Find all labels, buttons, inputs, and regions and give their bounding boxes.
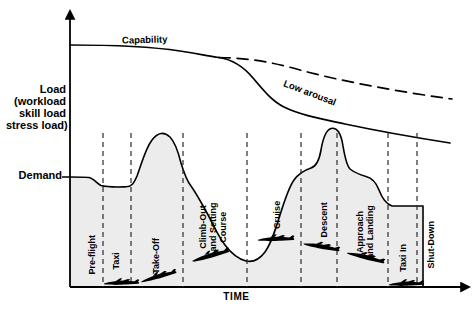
workload-capability-diagram: Load (workload skill load stress load) D… bbox=[0, 0, 473, 312]
phase-label-climb-out: Climb-Out and Setting Course bbox=[198, 187, 228, 267]
x-axis-label: TIME bbox=[0, 292, 473, 303]
phase-label-descent: Descent bbox=[320, 185, 330, 255]
phase-label-approach-landing: Approach and Landing bbox=[355, 192, 375, 272]
demand-label: Demand bbox=[6, 170, 62, 182]
y-axis-label: Load (workload skill load stress load) bbox=[6, 84, 66, 132]
capability-label: Capability bbox=[122, 34, 168, 45]
phase-label-shut-down: Shut-Down bbox=[427, 210, 437, 280]
phase-label-take-off: Take-Off bbox=[152, 221, 162, 291]
phase-label-pre-flight: Pre-flight bbox=[88, 220, 98, 290]
capability-curve bbox=[70, 45, 219, 58]
phase-label-cruise: Cruise bbox=[273, 180, 283, 250]
phase-label-taxi-in: Taxi In bbox=[399, 223, 409, 293]
phase-label-taxi: Taxi bbox=[112, 226, 122, 296]
